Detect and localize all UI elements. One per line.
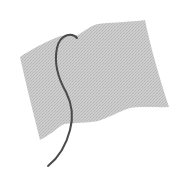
flag-cloth [20, 20, 169, 140]
flag-icon [0, 0, 192, 194]
flag-illustration [0, 0, 192, 194]
